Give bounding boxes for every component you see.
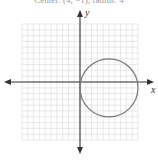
x-axis xyxy=(4,79,154,85)
y-axis-down-arrow-icon xyxy=(77,147,83,154)
coordinate-plane: x y xyxy=(0,0,158,161)
y-axis-label: y xyxy=(84,7,90,18)
y-axis-up-arrow-icon xyxy=(77,10,83,17)
x-axis-left-arrow-icon xyxy=(4,79,11,85)
x-axis-label: x xyxy=(150,84,156,95)
